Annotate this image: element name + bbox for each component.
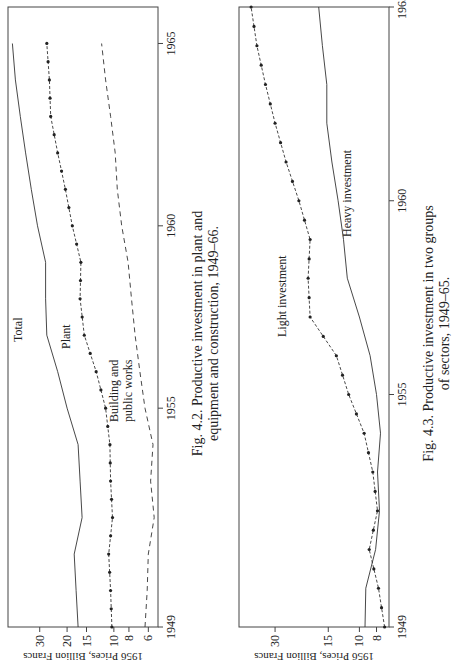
- x-tick-label: 1949: [395, 615, 409, 639]
- y-tick-label: 30: [268, 635, 282, 647]
- data-marker: [79, 279, 82, 282]
- data-marker: [53, 133, 56, 136]
- data-marker: [60, 170, 63, 173]
- data-marker: [377, 587, 380, 590]
- figure-4-3: 810153019491955196019651956 Prices, Bill…: [231, 0, 457, 667]
- data-marker: [110, 498, 113, 501]
- data-marker: [260, 64, 263, 67]
- y-tick-label: 20: [60, 635, 74, 647]
- data-marker: [79, 261, 82, 264]
- data-marker: [309, 238, 312, 241]
- data-marker: [107, 552, 110, 555]
- y-tick-label: 8: [122, 635, 136, 641]
- data-marker: [291, 180, 294, 183]
- data-marker: [78, 297, 81, 300]
- data-marker: [309, 315, 312, 318]
- data-marker: [264, 83, 267, 86]
- data-marker: [48, 78, 51, 81]
- series-annotation: Building and: [107, 360, 121, 422]
- data-marker: [56, 151, 59, 154]
- data-marker: [376, 509, 379, 512]
- data-marker: [110, 625, 113, 628]
- x-tick-label: 1965: [164, 31, 178, 55]
- data-marker: [383, 625, 386, 628]
- data-marker: [374, 490, 377, 493]
- series-annotation: Heavy investment: [340, 149, 354, 237]
- data-marker: [367, 451, 370, 454]
- data-marker: [355, 412, 358, 415]
- data-marker: [49, 115, 52, 118]
- data-marker: [380, 606, 383, 609]
- data-marker: [273, 122, 276, 125]
- chart-4-3-plot: 810153019491955196019651956 Prices, Bill…: [231, 0, 421, 667]
- data-marker: [322, 335, 325, 338]
- series-annotation: Plant: [59, 324, 73, 349]
- series-line-plant: [47, 44, 113, 628]
- data-marker: [95, 370, 98, 373]
- data-marker: [89, 352, 92, 355]
- caption-line-2: of sectors, 1949–65.: [437, 0, 453, 667]
- y-tick-label: 6: [141, 635, 155, 641]
- data-marker: [110, 607, 113, 610]
- data-marker: [45, 42, 48, 45]
- data-marker: [64, 188, 67, 191]
- data-marker: [71, 224, 74, 227]
- x-tick-label: 1955: [164, 396, 178, 420]
- data-marker: [308, 296, 311, 299]
- y-tick-label: 15: [80, 635, 94, 647]
- y-tick-label: 30: [33, 635, 47, 647]
- data-marker: [297, 199, 300, 202]
- data-marker: [372, 567, 375, 570]
- series-annotation: Total: [11, 317, 25, 342]
- data-marker: [303, 219, 306, 222]
- data-marker: [99, 388, 102, 391]
- data-marker: [111, 516, 114, 519]
- series-line-light-investment: [251, 7, 385, 627]
- plot-frame: [239, 7, 389, 627]
- data-marker: [109, 534, 112, 537]
- series-annotation: public works: [121, 359, 135, 422]
- y-tick-label: 10: [107, 635, 121, 647]
- data-marker: [363, 432, 366, 435]
- data-marker: [335, 354, 338, 357]
- data-marker: [372, 529, 375, 532]
- data-marker: [109, 461, 112, 464]
- data-marker: [48, 97, 51, 100]
- data-marker: [284, 160, 287, 163]
- data-marker: [109, 480, 112, 483]
- data-marker: [75, 242, 78, 245]
- figure-4-2: 681015203019491955196019651956 Prices, B…: [0, 0, 226, 667]
- chart-4-2-plot: 681015203019491955196019651956 Prices, B…: [0, 0, 190, 667]
- data-marker: [67, 206, 70, 209]
- data-marker: [371, 470, 374, 473]
- y-tick-label: 8: [370, 635, 384, 641]
- y-tick-label: 10: [352, 635, 366, 647]
- figure-4-3-caption: Fig. 4.3. Productive investment in two g…: [421, 0, 453, 667]
- data-marker: [81, 315, 84, 318]
- caption-line-2: equipment and construction, 1949–66.: [206, 0, 222, 667]
- caption-line-1: Fig. 4.3. Productive investment in two g…: [421, 0, 437, 667]
- data-marker: [341, 374, 344, 377]
- data-marker: [108, 571, 111, 574]
- data-marker: [308, 257, 311, 260]
- data-marker: [109, 589, 112, 592]
- y-axis-label: 1956 Prices, Billion Francs: [23, 651, 143, 663]
- figure-4-2-caption: Fig. 4.2. Productive investment in plant…: [190, 0, 222, 667]
- data-marker: [108, 443, 111, 446]
- data-marker: [279, 141, 282, 144]
- data-marker: [252, 25, 255, 28]
- y-axis-label: 1956 Prices, Billion Francs: [254, 651, 374, 663]
- x-tick-label: 1949: [164, 615, 178, 639]
- data-marker: [255, 44, 258, 47]
- data-marker: [307, 277, 310, 280]
- x-tick-label: 1955: [395, 383, 409, 407]
- series-line-heavy-investment: [319, 7, 381, 627]
- data-marker: [368, 548, 371, 551]
- data-marker: [347, 393, 350, 396]
- data-marker: [47, 60, 50, 63]
- series-line-building-and-public-works: [102, 44, 155, 628]
- data-marker: [249, 5, 252, 8]
- caption-line-1: Fig. 4.2. Productive investment in plant…: [190, 0, 206, 667]
- data-marker: [83, 334, 86, 337]
- x-tick-label: 1965: [395, 0, 409, 19]
